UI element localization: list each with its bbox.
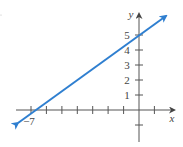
x-axis-label: x: [169, 112, 175, 124]
y-tick-label-2: 2: [124, 74, 130, 86]
y-axis-label: y: [128, 8, 134, 20]
y-tick-label-1: 1: [124, 89, 130, 101]
graph: 1 2 3 4 5 −7 x y: [0, 0, 183, 147]
y-tick-label-5: 5: [124, 29, 130, 41]
y-tick-label-3: 3: [124, 59, 130, 71]
data-line: [18, 16, 166, 123]
speck: [0, 14, 1, 15]
